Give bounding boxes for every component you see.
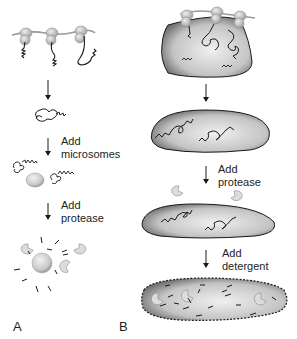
polysome-icon <box>12 26 96 66</box>
solubilized-vesicle-icon <box>142 278 287 320</box>
arrow-down-icon <box>45 203 51 220</box>
step-label-line2: microsomes <box>61 148 120 161</box>
vesicle-with-proteins-icon <box>151 110 269 152</box>
step-label-line1: Add <box>218 163 261 176</box>
step-label-b2: Add detergent <box>222 247 268 273</box>
panel-b <box>142 7 287 320</box>
digested-vesicle-icon <box>14 237 86 292</box>
folded-protein-icon <box>36 109 66 121</box>
step-label-line2: detergent <box>222 260 268 273</box>
arrow-down-icon <box>203 84 209 102</box>
arrow-down-icon <box>45 80 51 100</box>
step-label-line1: Add <box>61 199 104 212</box>
microsome-and-proteins-icon <box>13 160 74 187</box>
rough-er-vesicle-icon <box>162 7 255 77</box>
step-label-line2: protease <box>61 212 104 225</box>
arrow-down-icon <box>203 250 209 268</box>
step-label-line1: Add <box>61 135 120 148</box>
step-label-b1: Add protease <box>218 163 261 189</box>
step-label-a2: Add protease <box>61 199 104 225</box>
arrow-down-icon <box>45 138 51 156</box>
step-label-line2: protease <box>218 176 261 189</box>
panel-letter-a: A <box>13 319 22 334</box>
panel-letter-b: B <box>119 319 128 334</box>
step-label-a1: Add microsomes <box>61 135 120 161</box>
protected-vesicle-icon <box>142 204 275 238</box>
arrow-down-icon <box>203 166 209 184</box>
step-label-line1: Add <box>222 247 268 260</box>
